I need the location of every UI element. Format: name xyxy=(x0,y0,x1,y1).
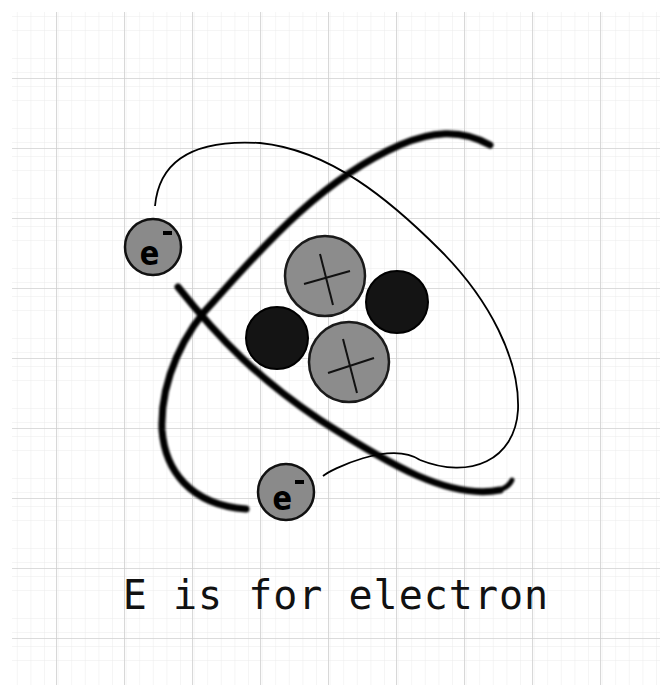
electron-bottom: e xyxy=(258,464,314,520)
minus-sign xyxy=(163,231,172,235)
electron-symbol: e xyxy=(140,234,160,273)
electron-symbol: e xyxy=(272,479,292,518)
minus-sign xyxy=(295,480,304,484)
caption: E is for electron xyxy=(0,572,672,618)
electron-upper-left: e xyxy=(125,219,181,275)
proton-bottom xyxy=(309,322,389,402)
neutron-left xyxy=(246,307,308,369)
proton-top xyxy=(285,236,365,316)
neutron-right xyxy=(366,271,428,333)
